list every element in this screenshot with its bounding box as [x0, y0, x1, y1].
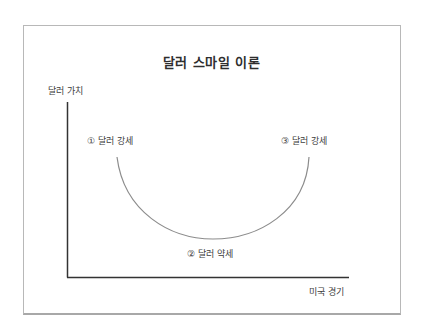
point-2-label: ② 달러 약세: [187, 247, 233, 260]
point-3-label: ③ 달러 강세: [281, 134, 327, 147]
y-axis-label: 달러 가치: [48, 84, 83, 97]
x-axis-label: 미국 경기: [309, 285, 344, 298]
point-1-label: ① 달러 강세: [87, 134, 133, 147]
smile-curve: [117, 157, 309, 239]
smile-plot: [0, 0, 423, 333]
